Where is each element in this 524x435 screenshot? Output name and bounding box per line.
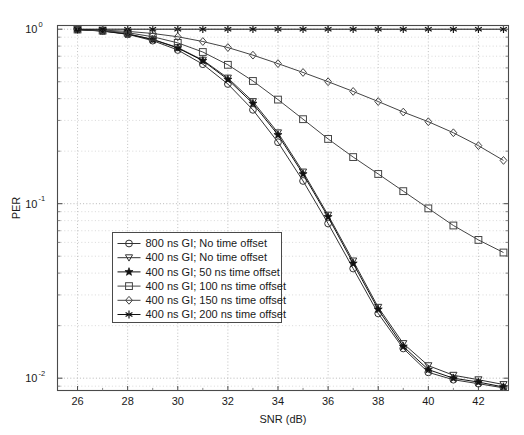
chart-canvas: 26283032343638404210010-110-2SNR (dB)PER… [0,0,524,435]
legend: 800 ns GI; No time offset400 ns GI; No t… [113,233,286,323]
x-tick-label: 42 [472,395,484,407]
x-tick-label: 40 [422,395,434,407]
y-axis-label: PER [10,197,22,220]
plot-background [58,26,509,391]
x-tick-label: 26 [71,395,83,407]
svg-text:0: 0 [39,20,43,29]
x-tick-label: 30 [172,395,184,407]
legend-label: 400 ns GI; No time offset [146,251,267,263]
x-tick-label: 38 [372,395,384,407]
svg-text:10: 10 [25,198,37,210]
legend-label: 400 ns GI; 150 ns time offset [146,294,286,306]
x-tick-label: 28 [122,395,134,407]
x-axis-label: SNR (dB) [259,413,306,425]
per-vs-snr-figure: 26283032343638404210010-110-2SNR (dB)PER… [0,0,524,435]
svg-text:10: 10 [25,372,37,384]
legend-label: 400 ns GI; 100 ns time offset [146,280,286,292]
x-tick-label: 36 [322,395,334,407]
legend-label: 400 ns GI; 200 ns time offset [146,308,286,320]
svg-text:-2: -2 [39,369,46,378]
y-tick-label: 10-2 [25,369,45,385]
x-tick-label: 34 [272,395,284,407]
svg-text:10: 10 [25,23,37,35]
y-tick-label: 10-1 [25,194,45,210]
x-tick-label: 32 [222,395,234,407]
legend-label: 800 ns GI; No time offset [146,237,267,249]
y-tick-label: 100 [25,20,42,36]
legend-label: 400 ns GI; 50 ns time offset [146,266,280,278]
svg-text:-1: -1 [39,194,46,203]
